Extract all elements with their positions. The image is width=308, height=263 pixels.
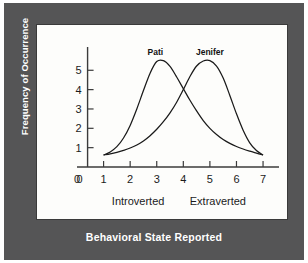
y-tick-label: 5 xyxy=(75,64,81,76)
series-labels: PatiJenifer xyxy=(148,47,225,57)
x-tick-label: 5 xyxy=(207,173,213,185)
distribution-curves xyxy=(104,60,263,155)
x-axis-category-labels: IntrovertedExtraverted xyxy=(112,195,246,207)
x-tick-label: 3 xyxy=(154,173,160,185)
curve-pati xyxy=(104,60,263,155)
x-axis-tick-labels: 01234567 xyxy=(74,173,266,185)
x-axis-ticks xyxy=(104,161,263,167)
x-category-label: Extraverted xyxy=(190,195,246,207)
y-tick-label: 4 xyxy=(75,84,81,96)
plot-panel: 012345 01234567 IntrovertedExtraverted P… xyxy=(36,24,288,220)
curve-jenifer xyxy=(104,60,263,155)
figure-container: Frequency of Occurrence 012345 01234567 … xyxy=(0,0,308,263)
x-tick-label: 0 xyxy=(74,173,80,185)
y-axis-ticks xyxy=(88,70,94,147)
series-label-jenifer: Jenifer xyxy=(196,47,225,57)
figure-title: Behavioral State Reported xyxy=(4,231,304,243)
chart-plot-svg: 012345 01234567 IntrovertedExtraverted P… xyxy=(37,25,287,219)
series-label-pati: Pati xyxy=(148,47,164,57)
x-tick-label: 7 xyxy=(260,173,266,185)
x-tick-label: 2 xyxy=(127,173,133,185)
x-tick-label: 1 xyxy=(101,173,107,185)
figure-mount-panel: Frequency of Occurrence 012345 01234567 … xyxy=(4,3,304,260)
y-tick-label: 3 xyxy=(75,103,81,115)
x-category-label: Introverted xyxy=(112,195,165,207)
x-tick-label: 4 xyxy=(180,173,186,185)
x-tick-label: 6 xyxy=(233,173,239,185)
y-tick-label: 1 xyxy=(75,142,81,154)
y-axis-title: Frequency of Occurrence xyxy=(19,2,30,152)
y-tick-label: 2 xyxy=(75,122,81,134)
